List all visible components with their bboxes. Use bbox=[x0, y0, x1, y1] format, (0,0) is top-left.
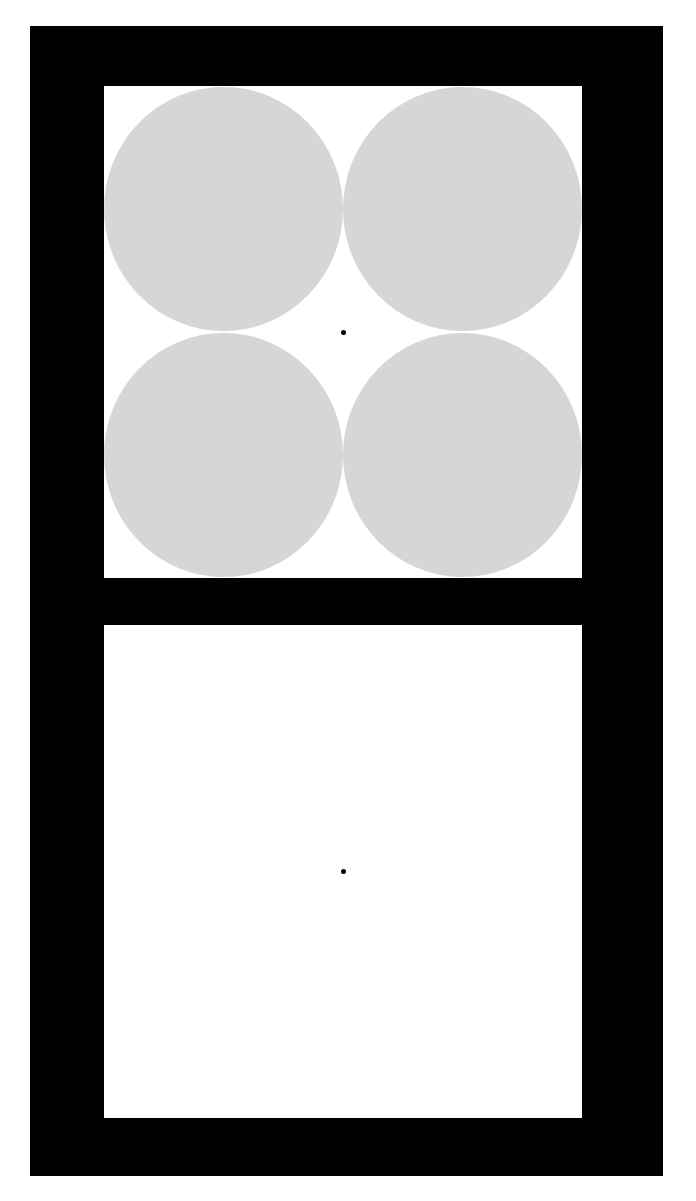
fixation-dot-bottom bbox=[341, 869, 346, 874]
circle-bottom-right bbox=[343, 333, 582, 577]
fixation-dot-top bbox=[341, 330, 346, 335]
circle-top-left bbox=[104, 87, 343, 331]
circle-bottom-left bbox=[104, 333, 343, 577]
bottom-panel bbox=[104, 625, 582, 1118]
circle-top-right bbox=[343, 87, 582, 331]
top-panel bbox=[104, 86, 582, 578]
